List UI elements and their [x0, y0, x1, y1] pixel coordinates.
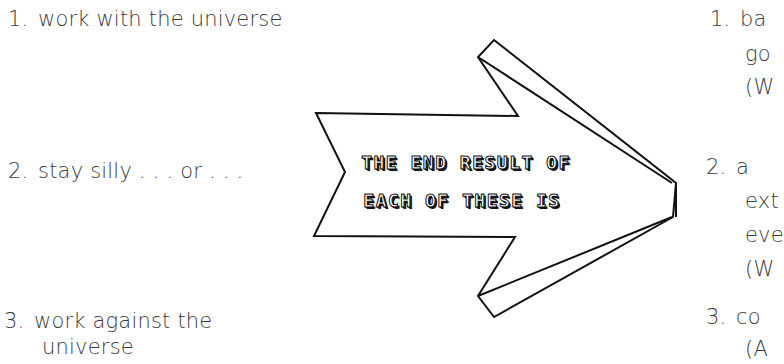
list-text: (A	[745, 337, 768, 361]
list-text: (W	[745, 257, 774, 281]
list-text: ba	[740, 7, 767, 31]
list-text: go	[745, 42, 771, 66]
arrow-banner-line-1: THE END RESULT OF	[346, 152, 586, 173]
arrow-banner-line-2: EACH OF THESE IS	[352, 190, 572, 211]
list-number: 2.	[706, 152, 736, 182]
list-number: 3.	[706, 302, 736, 332]
list-text: co	[736, 305, 761, 329]
list-text: a	[736, 155, 749, 179]
list-text: (W	[745, 75, 774, 99]
list-number: 1.	[710, 4, 740, 34]
list-text: eve	[745, 223, 784, 247]
list-text: ext	[745, 189, 779, 213]
